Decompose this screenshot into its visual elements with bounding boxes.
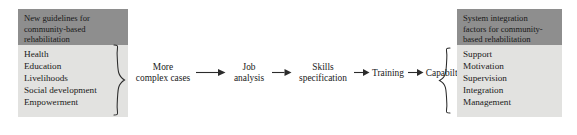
left-group-header-line-3: rehabilitation (24, 34, 123, 45)
diagram-canvas: New guidelines for community-based rehab… (0, 0, 577, 135)
flow-node-job-analysis-line-2: analysis (228, 73, 270, 84)
left-group-item-livelihoods: Livelihoods (24, 73, 123, 85)
flow-node-skills-specification-line-1: Skills (292, 62, 354, 73)
flow-node-skills-specification-line-2: specification (292, 73, 354, 84)
flow-node-training: Training (366, 68, 410, 79)
right-group-header-line-2: factors for community- (463, 24, 557, 35)
left-group-header-line-1: New guidelines for (24, 13, 123, 24)
right-group-item-list: Support Motivation Supervision Integrati… (457, 45, 562, 117)
right-group-header-line-3: based rehabilitation (463, 34, 557, 45)
right-curly-brace-icon (436, 47, 452, 114)
arrow-more-complex-cases-to-job-analysis (196, 68, 226, 77)
right-group-header-line-1: System integration (463, 13, 557, 24)
right-group-item-supervision: Supervision (463, 73, 557, 85)
right-group-item-support: Support (463, 49, 557, 61)
right-group-item-motivation: Motivation (463, 61, 557, 73)
left-group-item-empowerment: Empowerment (24, 97, 123, 109)
left-group-item-health: Health (24, 49, 123, 61)
flow-node-more-complex-cases-line-2: complex cases (132, 73, 194, 84)
flow-node-more-complex-cases-line-1: More (132, 62, 194, 73)
flow-node-more-complex-cases: More complex cases (132, 62, 194, 85)
flow-node-training-label: Training (366, 68, 410, 79)
right-group-box: System integration factors for community… (457, 9, 562, 117)
left-group-header-line-2: community-based (24, 24, 123, 35)
right-group-item-integration: Integration (463, 85, 557, 97)
flow-node-job-analysis-line-1: Job (228, 62, 270, 73)
right-group-header: System integration factors for community… (457, 9, 562, 45)
flow-node-job-analysis: Job analysis (228, 62, 270, 85)
left-curly-brace-icon (112, 44, 128, 116)
left-group-item-social-development: Social development (24, 85, 123, 97)
right-group-item-management: Management (463, 97, 557, 109)
left-group-item-education: Education (24, 61, 123, 73)
left-group-header: New guidelines for community-based rehab… (18, 9, 128, 45)
flow-node-skills-specification: Skills specification (292, 62, 354, 85)
arrow-job-analysis-to-skills-specification (272, 68, 292, 77)
